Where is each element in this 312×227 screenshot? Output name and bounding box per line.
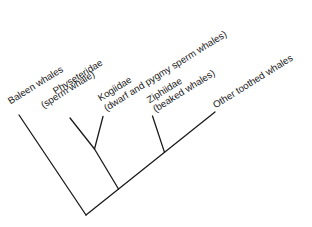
other-toothed-whales-label: Other toothed whales — [211, 52, 295, 111]
taxon-labels: Baleen whalesPhyseteridae(sperm whale)Ko… — [0, 0, 312, 227]
cladogram-figure: Baleen whalesPhyseteridae(sperm whale)Ko… — [0, 0, 312, 227]
